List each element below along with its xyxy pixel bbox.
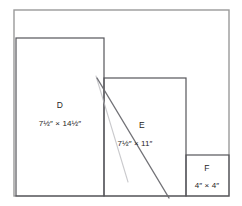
rectangle-d-dimensions: 7½″ × 14½″ (39, 119, 82, 128)
paper-size-diagram: D 7½″ × 14½″ E 7½″ × 11″ F 4″ × 4″ (0, 0, 242, 206)
figure-canvas: D 7½″ × 14½″ E 7½″ × 11″ F 4″ × 4″ (0, 0, 242, 206)
rectangle-e-letter: E (139, 120, 145, 130)
rectangle-f-dimensions: 4″ × 4″ (195, 181, 219, 190)
diagram-background (0, 0, 242, 206)
rectangle-f-letter: F (204, 163, 209, 173)
rectangle-d-letter: D (57, 100, 63, 110)
rectangle-e-dimensions: 7½″ × 11″ (117, 139, 152, 148)
